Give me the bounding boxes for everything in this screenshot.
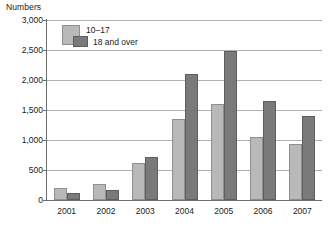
bar-2003-series-0 bbox=[132, 163, 145, 200]
y-axis-tick-label: 1,500 bbox=[3, 105, 43, 115]
x-axis-tick-label: 2004 bbox=[175, 206, 194, 216]
x-axis-tick-label: 2003 bbox=[136, 206, 155, 216]
y-axis-tick-label: 2,500 bbox=[3, 45, 43, 55]
bar-2006-series-0 bbox=[250, 137, 263, 200]
y-axis-tick-group: 05001,0001,5002,0002,5003,000 bbox=[0, 0, 43, 238]
x-axis-tick-label: 2007 bbox=[293, 206, 312, 216]
bar-2003-series-1 bbox=[145, 157, 158, 200]
y-axis-tick-label: 1,000 bbox=[3, 135, 43, 145]
bar-2007-series-1 bbox=[302, 116, 315, 200]
y-axis-tick-label: 3,000 bbox=[3, 15, 43, 25]
bar-2006-series-1 bbox=[263, 101, 276, 200]
gridline bbox=[47, 200, 322, 201]
y-axis-tick-label: 2,000 bbox=[3, 75, 43, 85]
bar-2001-series-0 bbox=[54, 188, 67, 200]
bar-2002-series-0 bbox=[93, 184, 106, 200]
bar-2005-series-0 bbox=[211, 104, 224, 200]
x-axis-tick-label: 2006 bbox=[254, 206, 273, 216]
legend-label-10-17: 10–17 bbox=[86, 25, 110, 35]
gridline bbox=[47, 20, 322, 21]
y-axis-tick-label: 0 bbox=[3, 195, 43, 205]
bar-2004-series-1 bbox=[185, 74, 198, 200]
x-axis-tick-group: 2001200220032004200520062007 bbox=[47, 206, 322, 226]
legend-swatch-18-and-over bbox=[73, 36, 88, 47]
bar-2002-series-1 bbox=[106, 190, 119, 200]
y-axis-tick-label: 500 bbox=[3, 165, 43, 175]
bar-2005-series-1 bbox=[224, 51, 237, 200]
x-axis-tick-label: 2001 bbox=[57, 206, 76, 216]
legend-label-18-and-over: 18 and over bbox=[93, 37, 138, 47]
legend: 10–17 18 and over bbox=[62, 25, 166, 52]
x-axis-tick-label: 2005 bbox=[214, 206, 233, 216]
bar-2001-series-1 bbox=[67, 193, 80, 200]
bar-2004-series-0 bbox=[172, 119, 185, 200]
x-axis-tick-label: 2002 bbox=[96, 206, 115, 216]
bar-chart: Numbers 05001,0001,5002,0002,5003,000 20… bbox=[0, 0, 334, 238]
bar-2007-series-0 bbox=[289, 144, 302, 200]
